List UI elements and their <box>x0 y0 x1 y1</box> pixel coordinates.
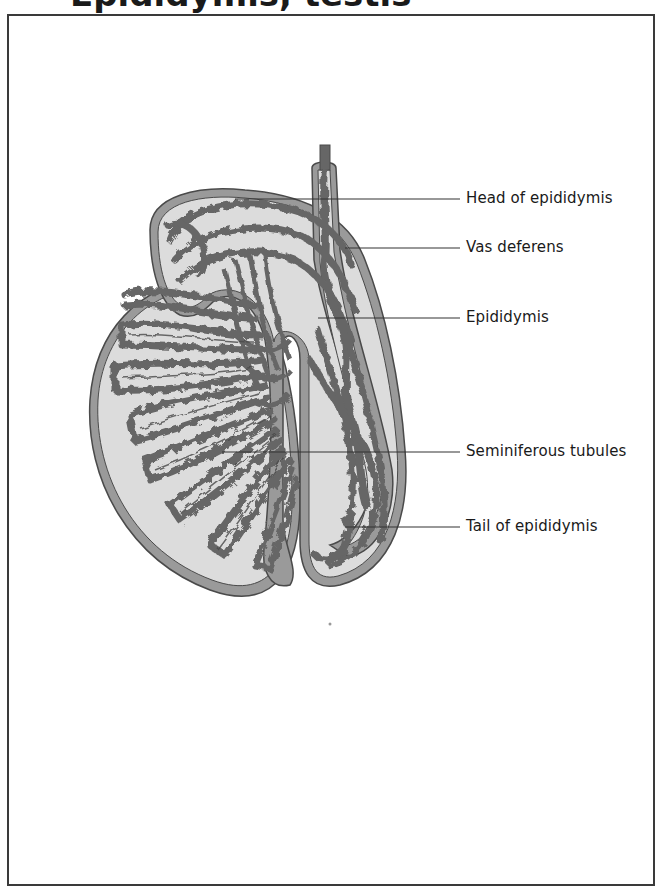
label-head-of-epididymis: Head of epididymis <box>466 189 613 207</box>
label-epididymis: Epididymis <box>466 308 549 326</box>
label-tail-of-epididymis: Tail of epididymis <box>466 517 598 535</box>
label-vas-deferens: Vas deferens <box>466 238 564 256</box>
label-seminiferous-tubules: Seminiferous tubules <box>466 442 626 460</box>
speck <box>329 623 332 626</box>
